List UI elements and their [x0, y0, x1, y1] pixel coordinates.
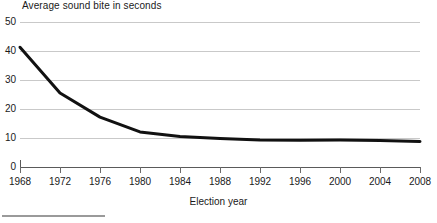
series-line-layer [0, 0, 437, 223]
x-axis-title: Election year [0, 196, 437, 207]
bottom-rule [2, 215, 105, 217]
chart-figure: Average sound bite in seconds 0102030405… [0, 0, 437, 223]
series-line-sound-bite [20, 47, 420, 141]
